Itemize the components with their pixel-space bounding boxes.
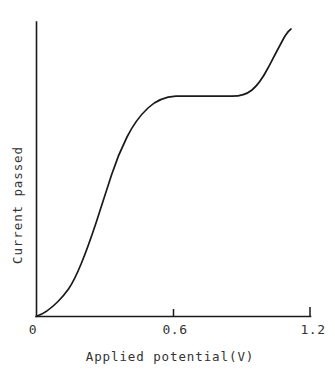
y-axis-title: Current passed [10, 146, 25, 264]
x-tick-label-mid: 0.6 [163, 322, 188, 337]
x-tick-label-origin: 0 [29, 322, 37, 337]
x-axis-title: Applied potential(V) [86, 349, 255, 364]
x-tick-label-max: 1.2 [301, 322, 326, 337]
polarogram-chart: 0 0.6 1.2 Applied potential(V) Current p… [0, 0, 335, 378]
